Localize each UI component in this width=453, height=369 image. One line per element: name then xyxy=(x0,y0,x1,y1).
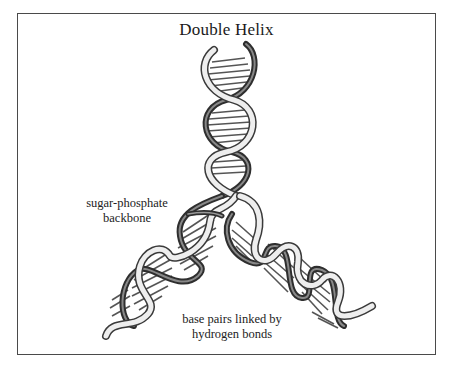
label-base-pairs: base pairs linked by hydrogen bonds xyxy=(176,312,288,342)
label-basepairs-line-1: base pairs linked by xyxy=(176,312,288,327)
label-basepairs-line-2: hydrogen bonds xyxy=(176,327,288,342)
label-backbone-line-2: backbone xyxy=(84,211,170,226)
helix-arm-top xyxy=(204,44,254,196)
label-sugar-phosphate-backbone: sugar-phosphate backbone xyxy=(84,196,170,226)
helix-arm-lower-right xyxy=(227,196,372,328)
label-backbone-line-1: sugar-phosphate xyxy=(84,196,170,211)
